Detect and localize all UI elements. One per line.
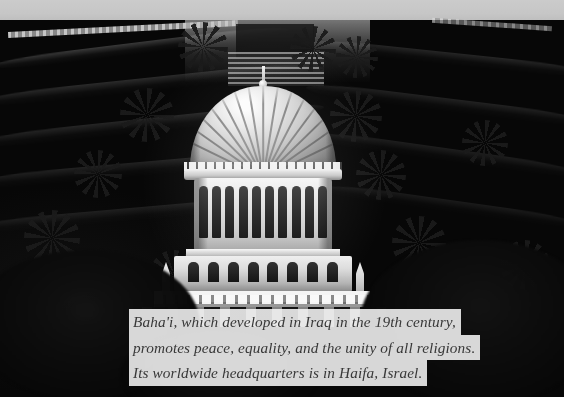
podium-window [327,262,338,282]
podium-window [208,262,219,282]
podium-window [228,262,239,282]
dome-rib [262,86,264,174]
dome-ribs [190,86,336,174]
colonnade-arch [292,186,301,238]
photograph-shrine-of-the-bab: Baha'i, which developed in Iraq in the 1… [0,0,564,397]
colonnade-arch [225,186,234,238]
podium-window-row [184,262,342,284]
palm-tree-icon [74,150,122,198]
colonnade-arch [318,186,327,238]
palm-tree-icon [356,150,406,200]
podium-window [248,262,259,282]
palm-tree-icon [462,120,508,166]
caption-overlay: Baha'i, which developed in Iraq in the 1… [129,309,529,386]
podium-window [188,262,199,282]
podium-window [287,262,298,282]
colonnade-arch [265,186,274,238]
image-viewer: Baha'i, which developed in Iraq in the 1… [0,0,571,411]
colonnade-arch [239,186,248,238]
colonnade-arch [212,186,221,238]
shrine-of-the-bab-building [168,66,358,316]
palm-tree-icon [120,88,174,142]
caption-line: promotes peace, equality, and the unity … [129,335,480,361]
caption-line: Its worldwide headquarters is in Haifa, … [129,360,427,386]
shrine-arched-colonnade [194,186,332,244]
podium-window [307,262,318,282]
colonnade-arch [278,186,287,238]
page-margin-right [564,0,571,411]
page-margin-bottom [0,397,571,411]
colonnade-arch [199,186,208,238]
caption-line: Baha'i, which developed in Iraq in the 1… [129,309,461,335]
colonnade-arch [252,186,261,238]
colonnade-arch [305,186,314,238]
podium-window [267,262,278,282]
palm-tree-icon [178,22,228,72]
